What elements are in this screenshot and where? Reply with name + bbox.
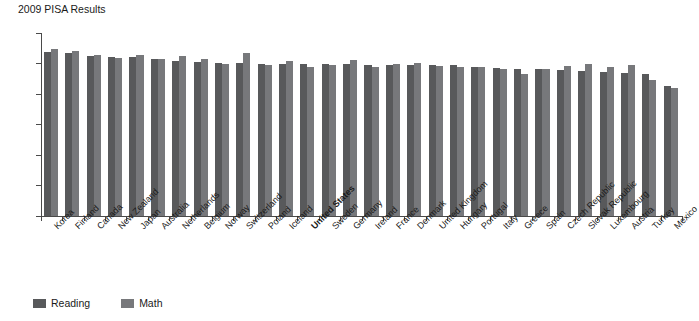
x-axis-label-italy: Italy [501, 212, 520, 231]
x-axis-label-iceland: Iceland [287, 203, 315, 231]
legend-swatch-reading [33, 299, 46, 308]
x-axis-label-korea: Korea [52, 207, 76, 231]
legend-swatch-math [121, 299, 134, 308]
legend-label-math: Math [139, 297, 162, 309]
legend-label-reading: Reading [51, 297, 90, 309]
chart-legend: ReadingMath [33, 297, 162, 309]
legend-item-math[interactable]: Math [121, 297, 162, 309]
legend-item-reading[interactable]: Reading [33, 297, 90, 309]
x-axis-label-mexico: Mexico [672, 204, 699, 231]
x-axis-label-france: France [394, 204, 421, 231]
